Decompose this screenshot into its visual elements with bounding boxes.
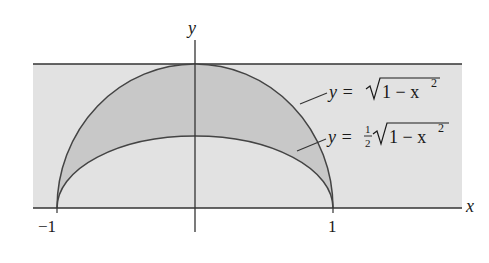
outer-label-prefix: y = (327, 82, 354, 102)
y-axis-label: y (186, 18, 196, 38)
inner-label-prefix: y = (326, 127, 353, 147)
x-axis-label: x (465, 196, 474, 216)
inner-label-radicand: 1 − x (389, 127, 426, 147)
inner-label-exponent: 2 (438, 121, 444, 135)
region-diagram: y x −1 1 y = 1 − x 2 y = 1 2 1 − x 2 (0, 0, 489, 263)
outer-label-radicand: 1 − x (382, 82, 419, 102)
tick-label-one: 1 (328, 217, 337, 236)
inner-label-coef-num: 1 (365, 123, 371, 135)
tick-label-minus-one: −1 (38, 217, 56, 236)
inner-label-coef-den: 2 (365, 137, 371, 149)
outer-label-exponent: 2 (431, 76, 437, 90)
